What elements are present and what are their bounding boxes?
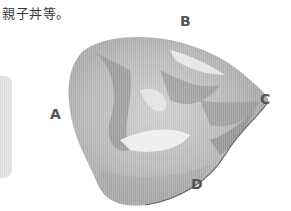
figure-label-d: D xyxy=(191,176,203,192)
document-text-fragment: 親子丼等。 xyxy=(2,3,70,22)
figure-label-a: A xyxy=(50,106,61,122)
specimen-illustration xyxy=(60,30,280,208)
side-tab-marker xyxy=(0,76,12,178)
figure-label-b: B xyxy=(180,13,191,29)
figure-label-c: C xyxy=(260,91,270,107)
specimen-drawing xyxy=(60,30,280,208)
